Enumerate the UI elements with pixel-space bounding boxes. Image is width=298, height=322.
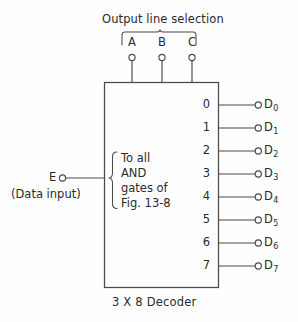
output-label-6-name: D [264, 235, 273, 249]
output-terminal-6 [255, 240, 261, 246]
output-terminal-3 [255, 171, 261, 177]
output-label-4-name: D [264, 189, 273, 203]
output-label-4: D4 [264, 191, 278, 203]
output-pin-number-4: 4 [198, 191, 210, 203]
output-terminal-2 [255, 148, 261, 154]
select-terminal-b [159, 54, 165, 60]
output-terminal-7 [255, 263, 261, 269]
output-terminal-0 [255, 102, 261, 108]
output-label-0-name: D [264, 97, 273, 111]
output-label-3-name: D [264, 166, 273, 180]
output-pin-number-1: 1 [198, 122, 210, 134]
inner-note-line-3: gates of [121, 183, 168, 195]
output-leads [219, 105, 256, 266]
output-label-2: D2 [264, 145, 278, 157]
enable-label: E [49, 172, 56, 184]
output-label-7-name: D [264, 258, 273, 272]
output-pin-number-6: 6 [198, 237, 210, 249]
output-pin-number-3: 3 [198, 168, 210, 180]
select-terminal-a [129, 54, 135, 60]
output-label-6-sub: 6 [273, 242, 278, 251]
enable-terminal [59, 175, 65, 181]
select-terminal-c [189, 54, 195, 60]
output-terminal-4 [255, 194, 261, 200]
output-label-1: D1 [264, 122, 278, 134]
output-pin-number-7: 7 [198, 260, 210, 272]
output-pin-number-0: 0 [198, 99, 210, 111]
output-label-3: D3 [264, 168, 278, 180]
output-label-4-sub: 4 [273, 196, 278, 205]
output-label-5-name: D [264, 212, 273, 226]
inner-note-line-2: AND [121, 168, 146, 180]
inner-note-line-1: To all [121, 153, 150, 165]
output-label-2-name: D [264, 143, 273, 157]
inner-note-line-4: Fig. 13-8 [121, 198, 171, 210]
output-label-1-name: D [264, 120, 273, 134]
output-label-7: D7 [264, 260, 278, 272]
output-pin-number-2: 2 [198, 145, 210, 157]
enable-sublabel: (Data input) [11, 189, 81, 201]
select-label-c: C [188, 37, 196, 49]
inner-note-brace [109, 152, 118, 209]
output-label-5: D5 [264, 214, 278, 226]
output-label-3-sub: 3 [273, 173, 278, 182]
output-pin-number-5: 5 [198, 214, 210, 226]
output-label-7-sub: 7 [273, 265, 278, 274]
output-label-5-sub: 5 [273, 219, 278, 228]
output-label-6: D6 [264, 237, 278, 249]
output-label-1-sub: 1 [273, 127, 278, 136]
output-terminals [255, 102, 261, 269]
figure-caption: 3 X 8 Decoder [112, 297, 196, 309]
output-terminal-5 [255, 217, 261, 223]
output-label-0: D0 [264, 99, 278, 111]
output-label-0-sub: 0 [273, 104, 278, 113]
output-terminal-1 [255, 125, 261, 131]
select-label-a: A [128, 37, 136, 49]
output-label-2-sub: 2 [273, 150, 278, 159]
output-line-selection-title: Output line selection [102, 14, 224, 26]
select-label-b: B [158, 37, 166, 49]
decoder-diagram: Output line selection A B C E (Data inpu… [0, 0, 298, 322]
